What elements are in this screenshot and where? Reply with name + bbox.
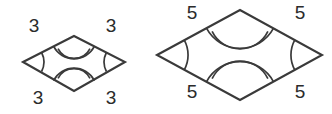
small-rhombus-bottom-angle-arc-inner: [58, 69, 90, 79]
large-rhombus-right-angle-arc: [291, 40, 295, 70]
large-rhombus-left-angle-arc: [184, 40, 188, 70]
small-rhombus-outline: [23, 36, 125, 91]
small-rhombus-label-top-right: 3: [106, 15, 117, 36]
small-rhombus: 3 3 3 3: [23, 15, 125, 108]
large-rhombus-label-top-right: 5: [295, 2, 306, 23]
large-rhombus: 5 5 5 5: [157, 2, 322, 102]
large-rhombus-bottom-angle-arc-inner: [212, 61, 268, 78]
small-rhombus-right-angle-arc: [104, 53, 106, 72]
small-rhombus-label-bottom-right: 3: [106, 87, 117, 108]
small-rhombus-left-angle-arc: [42, 53, 44, 72]
large-rhombus-label-bottom-left: 5: [187, 81, 198, 102]
small-rhombus-top-angle-arc-inner: [58, 49, 90, 59]
small-rhombus-label-bottom-left: 3: [33, 87, 44, 108]
small-rhombus-label-top-left: 3: [29, 15, 40, 36]
large-rhombus-label-top-left: 5: [187, 2, 198, 23]
geometry-figure: 3 3 3 3 5 5 5 5: [0, 0, 332, 114]
large-rhombus-top-angle-arc-inner: [212, 31, 268, 48]
large-rhombus-label-bottom-right: 5: [295, 81, 306, 102]
